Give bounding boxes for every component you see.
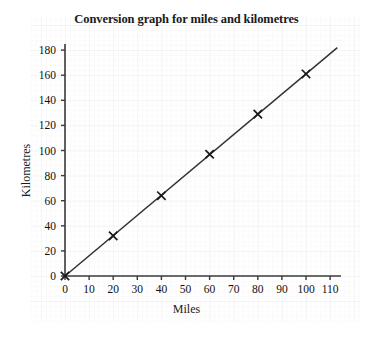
x-tick-label: 110 (322, 283, 339, 295)
x-tick-label: 40 (156, 283, 168, 295)
x-tick-label: 0 (62, 283, 68, 295)
y-axis-label: Kilometres (19, 101, 34, 241)
x-tick-label: 90 (276, 283, 288, 295)
x-tick-label: 10 (83, 283, 95, 295)
y-tick-label: 180 (0, 44, 56, 56)
x-tick-label: 60 (204, 283, 216, 295)
x-tick-label: 50 (180, 283, 192, 295)
x-tick-label: 20 (107, 283, 119, 295)
x-tick-label: 80 (252, 283, 264, 295)
conversion-graph-figure: Conversion graph for miles and kilometre… (0, 0, 373, 340)
x-tick-label: 30 (132, 283, 144, 295)
y-tick-label: 20 (0, 245, 56, 257)
y-tick-label: 160 (0, 69, 56, 81)
conversion-line (65, 48, 337, 276)
x-tick-label: 100 (297, 283, 314, 295)
y-tick-label: 0 (0, 270, 56, 282)
x-tick-label: 70 (228, 283, 240, 295)
x-axis-label: Miles (0, 302, 373, 317)
